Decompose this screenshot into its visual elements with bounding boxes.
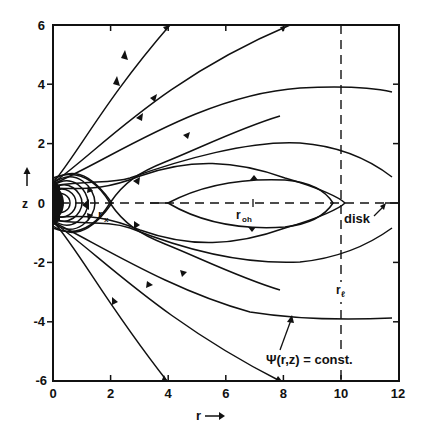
- x-tick-label: 0: [49, 386, 56, 401]
- y-tick-label: 2: [38, 136, 45, 151]
- svg-text:Ψ(r,z) = const.: Ψ(r,z) = const.: [266, 352, 353, 367]
- y-axis-label: z: [22, 167, 31, 211]
- annotation-disk: disk: [342, 203, 386, 226]
- svg-text:x: x: [104, 215, 109, 224]
- svg-text:r: r: [236, 208, 241, 222]
- annotation-rl: r ℓ: [333, 282, 351, 302]
- magnetic-field-line-diagram: 0 2 4 6 8 10 12 -6 -4 -2 0 2 4 6 r z: [0, 0, 423, 433]
- y-tick-label: 0: [38, 196, 45, 211]
- arrow-icon: [121, 50, 128, 60]
- y-tick-label: 4: [38, 77, 46, 92]
- x-tick-label: 4: [165, 386, 173, 401]
- annotation-psi: Ψ(r,z) = const.: [265, 315, 353, 368]
- arrow-icon: [112, 297, 118, 305]
- svg-text:z: z: [22, 197, 28, 211]
- y-axis-arrowhead-icon: [24, 167, 31, 174]
- x-tick-label: 8: [280, 386, 287, 401]
- svg-text:r: r: [196, 408, 201, 423]
- svg-text:oh: oh: [242, 215, 252, 224]
- y-tick-label: 6: [38, 18, 45, 33]
- annotation-roh: r oh: [236, 208, 252, 224]
- y-tick-label: -4: [33, 314, 45, 329]
- x-tick-label: 10: [334, 386, 348, 401]
- x-axis-tick-labels: 0 2 4 6 8 10 12: [49, 386, 405, 401]
- arrow-icon: [180, 270, 187, 277]
- x-tick-label: 2: [107, 386, 114, 401]
- arrow-icon: [113, 76, 120, 86]
- arrow-icon: [250, 175, 258, 180]
- svg-text:r: r: [98, 208, 103, 222]
- y-tick-label: -6: [35, 373, 47, 388]
- y-axis-tick-labels: -6 -4 -2 0 2 4 6: [33, 18, 47, 388]
- x-tick-label: 12: [391, 386, 405, 401]
- svg-text:disk: disk: [344, 211, 371, 226]
- arrow-icon: [146, 281, 153, 288]
- arrow-icon: [183, 132, 190, 139]
- x-axis-label: r: [196, 408, 225, 423]
- x-axis-arrowhead-icon: [219, 412, 225, 420]
- arrow-icon: [248, 227, 256, 232]
- x-tick-label: 6: [222, 386, 229, 401]
- svg-text:ℓ: ℓ: [341, 290, 345, 299]
- arrow-icon: [134, 221, 140, 229]
- arrow-icon: [82, 199, 89, 210]
- y-tick-label: -2: [33, 255, 45, 270]
- arrow-icon: [161, 375, 167, 382]
